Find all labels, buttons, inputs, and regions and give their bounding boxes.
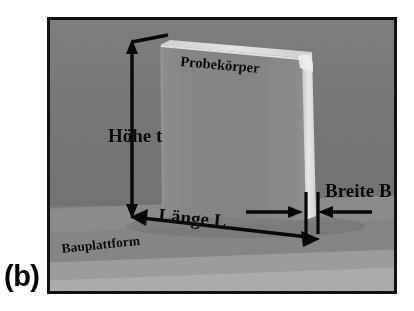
specimen-label: Probekörper (180, 53, 261, 76)
width-dimension-label: Breite B (325, 180, 392, 201)
photograph: Höhe t Länge L Breite B Probekörper Baup… (50, 20, 394, 291)
figure-caption: (b) (4, 262, 40, 291)
length-dimension-label: Länge L (158, 204, 228, 231)
build-platform-label: Bauplattform (61, 233, 142, 256)
height-dimension-label: Höhe t (108, 125, 163, 146)
dimension-annotations: Höhe t Länge L Breite B Probekörper Baup… (50, 20, 394, 291)
photo-frame: Höhe t Länge L Breite B Probekörper Baup… (47, 17, 397, 294)
